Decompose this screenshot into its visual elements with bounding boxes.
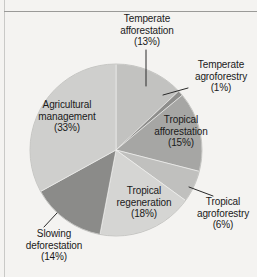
pie-label-line-1: Tropical — [138, 114, 224, 126]
pie-label-value: (14%) — [9, 251, 99, 263]
pie-label-line-2: afforestation — [138, 126, 224, 138]
pie-label-value: (1%) — [186, 82, 256, 94]
pie-label-line-1: Temperate — [100, 13, 194, 25]
pie-label-line-2: afforestation — [100, 25, 194, 37]
pie-label-line-2: agroforestry — [190, 208, 256, 220]
pie-label-tropical-regeneration: Tropical regeneration (18%) — [103, 185, 185, 220]
pie-label-value: (15%) — [138, 137, 224, 149]
figure-panel: Temperate afforestation (13%) Temperate … — [0, 0, 257, 277]
pie-label-value: (18%) — [103, 208, 185, 220]
pie-label-line-2: regeneration — [103, 197, 185, 209]
pie-label-line-1: Agricultural — [22, 99, 112, 111]
pie-label-line-1: Tropical — [190, 196, 256, 208]
pie-label-tropical-agroforestry: Tropical agroforestry (6%) — [190, 196, 256, 231]
pie-label-line-1: Temperate — [186, 59, 256, 71]
pie-label-line-1: Tropical — [103, 185, 185, 197]
pie-label-line-2: agroforestry — [186, 71, 256, 83]
pie-label-agricultural-management: Agricultural management (33%) — [22, 99, 112, 134]
pie-label-value: (33%) — [22, 122, 112, 134]
pie-label-slowing-deforestation: Slowing deforestation (14%) — [9, 228, 99, 263]
leader-line-slowing-deforestation — [44, 213, 57, 227]
pie-label-temperate-agroforestry: Temperate agroforestry (1%) — [186, 59, 256, 94]
pie-label-line-2: management — [22, 111, 112, 123]
pie-label-value: (13%) — [100, 36, 194, 48]
pie-label-line-1: Slowing — [9, 228, 99, 240]
pie-label-value: (6%) — [190, 219, 256, 231]
pie-label-line-2: deforestation — [9, 240, 99, 252]
pie-label-temperate-afforestation: Temperate afforestation (13%) — [100, 13, 194, 48]
pie-label-tropical-afforestation: Tropical afforestation (15%) — [138, 114, 224, 149]
leader-line-tropical-agroforestry — [189, 187, 213, 196]
